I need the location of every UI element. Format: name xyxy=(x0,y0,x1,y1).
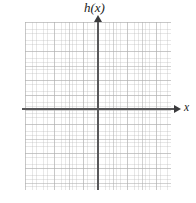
x-axis-arrow-icon xyxy=(174,105,181,113)
y-axis-label: h(x) xyxy=(84,1,105,14)
coordinate-grid-figure: h(x) x xyxy=(0,0,196,203)
x-axis-label: x xyxy=(184,102,189,114)
x-axis-line xyxy=(22,108,178,110)
y-axis-line xyxy=(97,22,99,190)
y-axis-arrow-icon xyxy=(94,15,102,22)
